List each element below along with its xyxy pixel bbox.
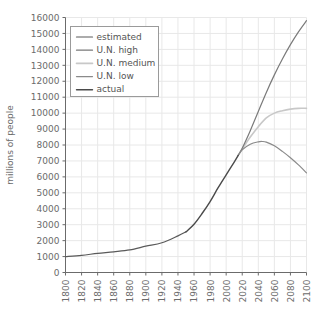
series-line-u-n-low (238, 141, 306, 172)
x-tick-label: 1860 (109, 279, 119, 302)
y-tick-label: 4000 (37, 204, 60, 214)
y-tick-label: 3000 (37, 220, 60, 230)
legend-label-u-n-high: U.N. high (97, 45, 139, 55)
y-axis-tick-labels: 0100020003000400050006000700080009000100… (31, 13, 60, 278)
population-growth-chart: 0100020003000400050006000700080009000100… (0, 0, 318, 317)
legend-label-estimated: estimated (97, 32, 142, 42)
y-tick-label: 10000 (31, 108, 60, 118)
series-line-u-n-medium (238, 108, 306, 155)
x-tick-label: 2040 (254, 279, 264, 302)
chart-legend: estimatedU.N. highU.N. mediumU.N. lowact… (71, 27, 159, 97)
x-tick-label: 2100 (302, 279, 312, 302)
x-tick-label: 2020 (238, 279, 248, 302)
x-tick-label: 2060 (270, 279, 280, 302)
series-line-u-n-high (238, 21, 306, 156)
x-tick-label: 1960 (189, 279, 199, 302)
x-tick-label: 1840 (93, 279, 103, 302)
x-tick-label: 1800 (61, 279, 71, 302)
x-tick-label: 1820 (77, 279, 87, 302)
y-tick-label: 13000 (31, 61, 60, 71)
y-tick-label: 12000 (31, 76, 60, 86)
x-tick-label: 1920 (157, 279, 167, 302)
y-tick-label: 1000 (37, 252, 60, 262)
y-tick-label: 16000 (31, 13, 60, 23)
x-tick-label: 2000 (222, 279, 232, 302)
y-axis-title: millions of people (5, 105, 15, 185)
chart-canvas: 0100020003000400050006000700080009000100… (0, 0, 318, 317)
y-tick-label: 15000 (31, 29, 60, 39)
x-tick-label: 1880 (125, 279, 135, 302)
y-tick-label: 14000 (31, 45, 60, 55)
y-tick-label: 0 (54, 268, 60, 278)
y-tick-label: 6000 (37, 172, 60, 182)
y-tick-label: 11000 (31, 92, 60, 102)
series-line-estimated (66, 232, 187, 257)
x-tick-label: 1980 (206, 279, 216, 302)
x-tick-label: 1940 (173, 279, 183, 302)
legend-label-actual: actual (97, 84, 125, 94)
y-tick-label: 7000 (37, 156, 60, 166)
legend-label-u-n-low: U.N. low (97, 71, 134, 81)
y-tick-label: 8000 (37, 140, 60, 150)
x-axis-tick-labels: 1800182018401860188019001920194019601980… (61, 279, 312, 302)
legend-label-u-n-medium: U.N. medium (97, 58, 156, 68)
x-tick-label: 2080 (286, 279, 296, 302)
y-tick-label: 9000 (37, 124, 60, 134)
y-axis-label-text: millions of people (5, 105, 15, 185)
y-tick-label: 2000 (37, 236, 60, 246)
x-tick-label: 1900 (141, 279, 151, 302)
y-tick-label: 5000 (37, 188, 60, 198)
